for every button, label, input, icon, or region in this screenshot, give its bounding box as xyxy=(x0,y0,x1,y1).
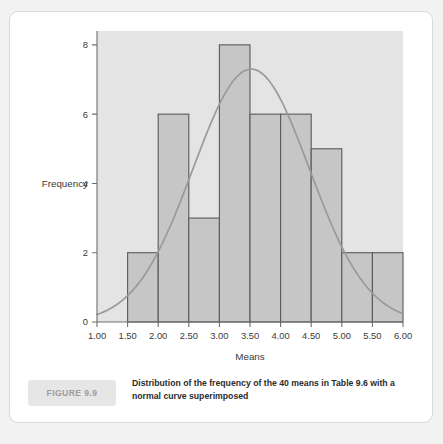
y-tick-label: 0 xyxy=(83,316,88,327)
y-axis-title: Frequency xyxy=(42,178,88,189)
histogram-bar xyxy=(281,114,312,322)
x-axis-title: Means xyxy=(235,351,265,362)
chart-canvas: 02468 1.001.502.002.503.003.504.004.505.… xyxy=(10,12,433,367)
histogram-bar xyxy=(189,218,220,322)
y-tick-label: 8 xyxy=(83,39,88,50)
histogram-bar xyxy=(250,114,281,322)
x-tick-label: 3.50 xyxy=(241,330,259,341)
x-tick-label: 3.00 xyxy=(210,330,228,341)
y-tick-label: 2 xyxy=(83,247,88,258)
figure-number-badge: FIGURE 9.9 xyxy=(28,380,116,406)
x-tick-label: 4.00 xyxy=(271,330,289,341)
x-tick-label: 4.50 xyxy=(302,330,320,341)
x-tick-label: 6.00 xyxy=(394,330,412,341)
y-tick-label: 6 xyxy=(83,109,88,120)
figure-caption-row: FIGURE 9.9 Distribution of the frequency… xyxy=(10,370,433,423)
x-tick-label: 1.00 xyxy=(88,330,106,341)
figure-card: 02468 1.001.502.002.503.003.504.004.505.… xyxy=(9,11,433,423)
x-tick-label: 5.00 xyxy=(333,330,351,341)
x-tick-label: 5.50 xyxy=(363,330,381,341)
x-tick-label: 2.50 xyxy=(180,330,198,341)
histogram-bar xyxy=(128,253,159,322)
figure-caption-text: Distribution of the frequency of the 40 … xyxy=(132,377,416,404)
x-tick-label: 2.00 xyxy=(149,330,167,341)
x-axis-ticks: 1.001.502.002.503.003.504.004.505.005.50… xyxy=(88,322,412,341)
histogram-bar xyxy=(219,45,250,322)
x-tick-label: 1.50 xyxy=(118,330,136,341)
histogram-chart: 02468 1.001.502.002.503.003.504.004.505.… xyxy=(10,12,433,367)
